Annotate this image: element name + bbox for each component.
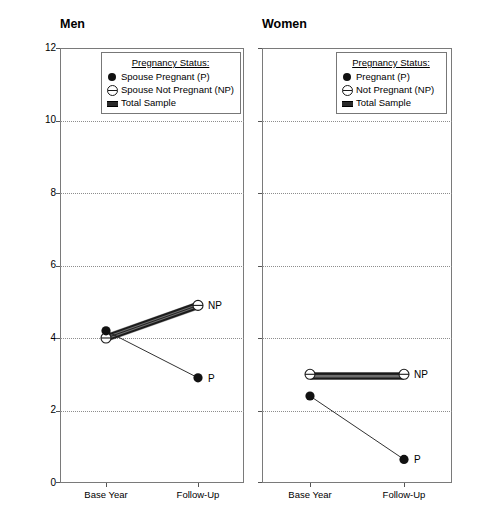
- figure-canvas: Percentage Reporting Cocaine Use in Past…: [0, 0, 479, 530]
- point-label-p-men: P: [208, 373, 215, 384]
- thick-bar-marker-icon: [107, 97, 120, 108]
- x-label-follow-up-men: Follow-Up: [177, 489, 220, 500]
- filled-circle-marker-icon: [342, 71, 355, 82]
- legend-row-pregnant-women: Pregnant (P): [342, 70, 440, 83]
- legend-row-pregnant-men: Spouse Pregnant (P): [107, 70, 234, 83]
- legend-label-not-pregnant-men: Spouse Not Pregnant (NP): [121, 84, 234, 96]
- point-label-np-men: NP: [208, 300, 222, 311]
- y-axis-tick-labels: 12 10 8 6 4 2 0: [22, 0, 56, 530]
- xtickmark-follow-up: [198, 483, 199, 487]
- panel-men: Men: [60, 48, 244, 483]
- legend-label-total-sample-men: Total Sample: [121, 97, 176, 109]
- xtickmark-base-year: [106, 483, 107, 487]
- legend-women: Pregnancy Status: Pregnant (P) Not Pregn…: [336, 52, 447, 114]
- legend-row-not-pregnant-men: Spouse Not Pregnant (NP): [107, 83, 234, 96]
- legend-row-total-sample-men: Total Sample: [107, 96, 234, 109]
- legend-label-total-sample-women: Total Sample: [356, 97, 411, 109]
- open-circle-marker-icon: [107, 84, 120, 95]
- y-tick-10: 10: [22, 115, 56, 125]
- open-circle-marker-icon: [342, 84, 355, 95]
- legend-men: Pregnancy Status: Spouse Pregnant (P) Sp…: [101, 52, 241, 114]
- x-label-follow-up-women: Follow-Up: [383, 489, 426, 500]
- y-tick-0: 0: [22, 478, 56, 488]
- panel-women: Women: [262, 48, 452, 483]
- x-label-base-year-men: Base Year: [84, 489, 127, 500]
- y-tick-6: 6: [22, 260, 56, 270]
- panel-title-women: Women: [262, 17, 307, 31]
- y-tick-12: 12: [22, 43, 56, 53]
- legend-label-pregnant-women: Pregnant (P): [356, 71, 410, 83]
- legend-label-not-pregnant-women: Not Pregnant (NP): [356, 84, 434, 96]
- legend-title-men: Pregnancy Status:: [107, 57, 234, 68]
- legend-title-women: Pregnancy Status:: [342, 57, 440, 68]
- legend-row-total-sample-women: Total Sample: [342, 96, 440, 109]
- thick-bar-marker-icon: [342, 97, 355, 108]
- panel-title-men: Men: [60, 17, 85, 31]
- legend-label-pregnant-men: Spouse Pregnant (P): [121, 71, 210, 83]
- point-label-p-women: P: [414, 454, 421, 465]
- y-tick-8: 8: [22, 188, 56, 198]
- xtickmark-base-year: [310, 483, 311, 487]
- filled-circle-marker-icon: [107, 71, 120, 82]
- legend-row-not-pregnant-women: Not Pregnant (NP): [342, 83, 440, 96]
- x-label-base-year-women: Base Year: [288, 489, 331, 500]
- xtickmark-follow-up: [404, 483, 405, 487]
- point-label-np-women: NP: [414, 369, 428, 380]
- y-tick-2: 2: [22, 405, 56, 415]
- series-pregnant-women: [305, 391, 408, 464]
- y-tick-4: 4: [22, 333, 56, 343]
